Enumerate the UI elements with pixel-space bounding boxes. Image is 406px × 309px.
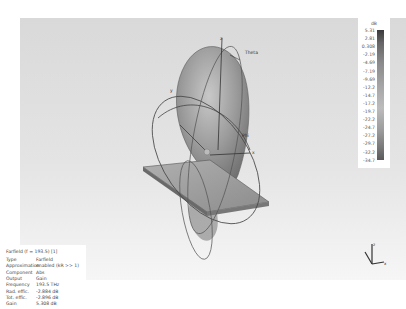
legend-tick: -24.7 [358,125,375,130]
info-value: enabled (kR >> 1) [36,263,79,268]
legend-tick: -7.19 [358,69,375,74]
colorbar [377,30,384,160]
legend-tick: -22.2 [358,117,375,122]
farfield-3d-pattern [20,18,406,280]
y-axis-label: y [170,88,173,93]
svg-text:x: x [384,261,387,266]
info-value: 5.308 dB [36,301,57,306]
legend-tick: -32.2 [358,150,375,155]
info-key: Type [6,257,17,262]
info-title: Farfield (f = 193.5) [1] [6,249,57,254]
legend-tick: -2.19 [358,52,375,57]
info-row: ComponentAbs [6,270,92,276]
info-row: Gain5.308 dB [6,301,92,307]
info-key: Gain [6,301,17,306]
legend-tick: -12.2 [358,85,375,90]
legend-tick: -29.7 [358,141,375,146]
info-row: Tot. effic.-2.896 dB [6,295,92,301]
legend-tick: -34.7 [358,158,375,163]
info-key: Frequency [6,282,30,287]
info-value: -2.884 dB [36,289,58,294]
info-key: Output [6,276,22,281]
x-axis-label: x [252,150,255,155]
theta-label: Theta [245,50,258,55]
legend-tick: -17.2 [358,101,375,106]
info-key: Approximation [6,263,40,268]
legend-tick: 5.31 [358,28,375,33]
legend-tick: -27.2 [358,133,375,138]
3d-farfield-viewport[interactable]: z Theta y x Phi z x [20,18,406,280]
legend-tick: -9.69 [358,77,375,82]
legend-tick: -14.7 [358,93,375,98]
info-value: Farfield [36,257,53,262]
info-value: 193.5 THz [36,282,59,287]
info-row: Approximationenabled (kR >> 1) [6,263,92,269]
legend-tick: -19.7 [358,109,375,114]
legend-tick: -4.69 [358,60,375,65]
orientation-axes-icon: z x [360,240,390,272]
legend-tick: 2.81 [358,36,375,41]
z-axis-label: z [220,36,222,41]
svg-text:z: z [373,242,375,247]
info-key: Component [6,270,33,275]
farfield-info-panel: Farfield (f = 193.5) [1] TypeFarfieldApp… [0,245,86,309]
colorbar-legend: dB 5.312.810.308-2.19-4.69-7.19-9.69-12.… [358,18,390,168]
info-row: TypeFarfield [6,257,92,263]
info-value: Gain [36,276,47,281]
info-key: Rad. effic. [6,289,29,294]
info-value: Abs [36,270,44,275]
legend-tick: 0.308 [358,44,375,49]
info-row: Rad. effic.-2.884 dB [6,289,92,295]
phi-label: Phi [242,133,249,138]
info-row: Frequency193.5 THz [6,282,92,288]
info-value: -2.896 dB [36,295,58,300]
info-row: OutputGain [6,276,92,282]
info-key: Tot. effic. [6,295,27,300]
legend-unit: dB [358,21,390,26]
